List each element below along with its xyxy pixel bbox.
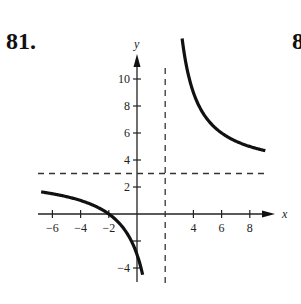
x-axis-label: x xyxy=(281,207,288,221)
right-branch-curve xyxy=(182,39,265,151)
y-tick-label: 2 xyxy=(124,180,130,194)
y-tick-label: 4 xyxy=(124,153,130,167)
x-tick-label: 6 xyxy=(219,221,225,235)
x-tick-label: −2 xyxy=(102,221,115,235)
rational-function-graph: xy−6−4−2468108642−4 xyxy=(0,0,301,304)
y-tick-label: 8 xyxy=(124,99,130,113)
x-tick-label: −4 xyxy=(74,221,87,235)
x-tick-label: 4 xyxy=(190,221,196,235)
y-axis-arrow-icon xyxy=(134,54,141,67)
x-tick-label: −6 xyxy=(46,221,59,235)
asymptotes xyxy=(38,68,265,285)
tick-labels: xy−6−4−2468108642−4 xyxy=(46,37,288,275)
x-tick-label: 8 xyxy=(247,221,253,235)
y-tick-label: 10 xyxy=(118,72,130,86)
y-tick-label: 6 xyxy=(124,126,130,140)
axes xyxy=(38,54,275,282)
y-tick-label: −4 xyxy=(117,261,130,275)
x-axis-arrow-icon xyxy=(262,211,275,218)
function-curves xyxy=(41,39,265,275)
y-axis-label: y xyxy=(133,37,140,51)
